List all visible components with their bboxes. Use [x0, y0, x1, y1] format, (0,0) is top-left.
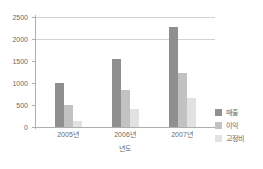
bar-group-2	[169, 17, 196, 127]
bar-group-0	[55, 17, 82, 127]
plot-area: 2500 2000 1500 1000 500 0	[35, 17, 215, 127]
bar-group-1	[112, 17, 139, 127]
x-axis-title: 년도	[119, 145, 131, 153]
legend-label-2: 고정비	[226, 135, 244, 143]
y-axis-label-2000: 2000	[12, 36, 28, 43]
bar-series-1-category-2	[178, 73, 187, 127]
y-axis-label-500: 500	[16, 102, 28, 109]
x-axis-label-2006: 2006년	[114, 131, 136, 139]
legend-swatch-icon-0	[215, 109, 222, 116]
x-axis-label-2007: 2007년	[171, 131, 193, 139]
y-axis-label-1000: 1000	[12, 80, 28, 87]
bar-series-1-category-0	[64, 105, 73, 127]
bar-series-2-category-2	[187, 98, 196, 127]
chart-legend: 매출 이익 고정비	[215, 106, 244, 145]
bar-series-0-category-1	[112, 59, 121, 127]
bar-series-0-category-0	[55, 83, 64, 127]
y-axis-label-1500: 1500	[12, 58, 28, 65]
bar-chart: 2500 2000 1500 1000 500 0	[0, 0, 263, 169]
legend-item-2: 고정비	[215, 132, 244, 145]
legend-label-1: 이익	[226, 122, 238, 130]
legend-swatch-icon-2	[215, 135, 222, 142]
legend-label-0: 매출	[226, 109, 238, 117]
legend-swatch-icon-1	[215, 122, 222, 129]
legend-item-0: 매출	[215, 106, 244, 119]
x-axis-line	[35, 127, 217, 128]
y-axis-label-2500: 2500	[12, 14, 28, 21]
legend-item-1: 이익	[215, 119, 244, 132]
y-axis-line	[35, 15, 36, 129]
bar-series-1-category-1	[121, 90, 130, 127]
bar-series-0-category-2	[169, 27, 178, 127]
x-axis-label-2005: 2005년	[57, 131, 79, 139]
y-axis-label-0: 0	[24, 124, 28, 131]
bar-series-2-category-1	[130, 109, 139, 127]
